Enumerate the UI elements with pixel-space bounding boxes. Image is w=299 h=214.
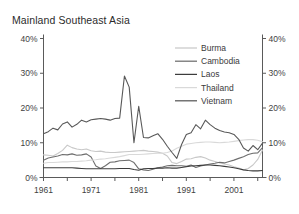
legend-label-cambodia: Cambodia	[201, 56, 240, 66]
series-line-laos	[44, 165, 263, 171]
chart-figure: Mainland Southeast Asia 0%0%10%10%20%20%…	[0, 0, 299, 214]
y-tick-label-left: 20%	[20, 103, 37, 113]
x-tick-label: 1981	[129, 185, 148, 195]
y-tick-label-right: 10%	[269, 138, 286, 148]
x-tick-label: 2001	[224, 185, 243, 195]
y-tick-label-right: 30%	[269, 68, 286, 78]
y-tick-label-right: 0%	[269, 173, 282, 183]
y-tick-label-left: 10%	[20, 138, 37, 148]
y-tick-label-left: 40%	[20, 34, 37, 44]
x-tick-label: 1991	[177, 185, 196, 195]
legend-label-burma: Burma	[201, 43, 226, 53]
plot-area: 0%0%10%10%20%20%30%30%40%40%196119711981…	[0, 0, 299, 214]
y-tick-label-left: 30%	[20, 68, 37, 78]
legend-label-vietnam: Vietnam	[201, 96, 232, 106]
y-tick-label-right: 20%	[269, 103, 286, 113]
chart-svg: 0%0%10%10%20%20%30%30%40%40%196119711981…	[0, 0, 299, 214]
series-line-burma	[44, 145, 263, 170]
x-tick-label: 1961	[34, 185, 53, 195]
y-tick-label-right: 40%	[269, 34, 286, 44]
legend-label-laos: Laos	[201, 69, 219, 79]
y-tick-label-left: 0%	[25, 173, 38, 183]
legend-label-thailand: Thailand	[201, 83, 234, 93]
x-tick-label: 1971	[82, 185, 101, 195]
